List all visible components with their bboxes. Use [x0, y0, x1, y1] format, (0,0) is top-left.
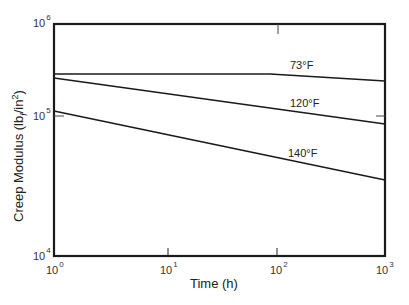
series-line-120F: [54, 78, 385, 124]
x-tick-label-10-3: 103: [376, 262, 394, 276]
x-axis-label: Time (h): [190, 276, 238, 291]
x-tick-label-10-1: 101: [160, 262, 178, 276]
y-tick-label-10-6: 106: [33, 15, 51, 29]
x-tick-label-10-2: 102: [270, 262, 288, 276]
series-label-73F: 73°F: [290, 59, 313, 71]
x-tick-label-10-0: 100: [46, 262, 64, 276]
y-tick-label-10-4: 104: [33, 248, 51, 262]
y-tick-label-10-5: 105: [33, 108, 51, 122]
series-label-120F: 120°F: [290, 97, 319, 109]
series-label-140F: 140°F: [288, 147, 317, 159]
series-line-73F: [54, 74, 385, 81]
series-line-140F: [54, 111, 385, 180]
plot-frame: [54, 24, 385, 256]
y-axis-label: Creep Modulus (lbf/in2): [10, 90, 29, 222]
